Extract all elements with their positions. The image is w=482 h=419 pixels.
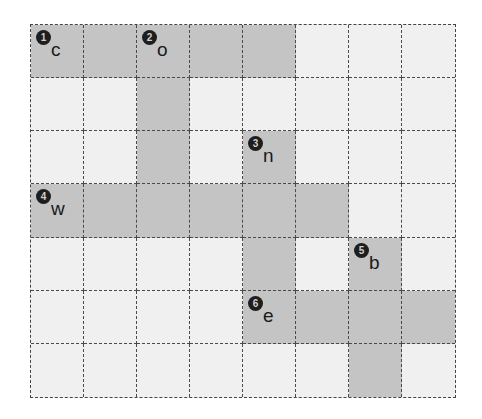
grid-cell-blank[interactable] — [190, 131, 243, 184]
grid-cell-blank[interactable] — [402, 238, 455, 291]
grid-cell-blank[interactable] — [137, 344, 190, 397]
grid-cell-blank[interactable] — [190, 344, 243, 397]
grid-cell-blank[interactable] — [402, 78, 455, 131]
grid-cell-blank[interactable] — [402, 184, 455, 237]
clue-number-badge: 5 — [354, 243, 369, 258]
grid-cell-blank[interactable] — [243, 344, 296, 397]
grid-cell-answer[interactable] — [402, 291, 455, 344]
grid-cell-answer[interactable] — [243, 238, 296, 291]
grid-cell-blank[interactable] — [31, 291, 84, 344]
clue-letter: n — [263, 145, 274, 167]
clue-number-badge: 1 — [36, 30, 51, 45]
clue-letter: o — [157, 39, 168, 61]
grid-cell-blank[interactable] — [84, 238, 137, 291]
grid-cell-blank[interactable] — [243, 78, 296, 131]
grid-cell-blank[interactable] — [84, 344, 137, 397]
grid-cell-blank[interactable] — [190, 78, 243, 131]
clue-letter: e — [263, 305, 274, 327]
clue-number-badge: 2 — [142, 30, 157, 45]
grid-cell-answer[interactable] — [349, 344, 402, 397]
grid-cell-answer[interactable] — [349, 291, 402, 344]
grid-cell-answer[interactable]: 4w — [31, 184, 84, 237]
grid-cell-blank[interactable] — [31, 131, 84, 184]
grid-cell-answer[interactable]: 5b — [349, 238, 402, 291]
clue-number-badge: 6 — [248, 296, 263, 311]
grid-cell-blank[interactable] — [84, 291, 137, 344]
grid-cell-answer[interactable] — [296, 184, 349, 237]
grid-cell-blank[interactable] — [296, 344, 349, 397]
grid-cell-blank[interactable] — [190, 238, 243, 291]
grid-cell-blank[interactable] — [31, 78, 84, 131]
grid-cell-blank[interactable] — [349, 78, 402, 131]
grid-cell-blank[interactable] — [296, 238, 349, 291]
grid-cell-blank[interactable] — [31, 344, 84, 397]
clue-number-badge: 4 — [36, 189, 51, 204]
grid-cell-answer[interactable] — [137, 184, 190, 237]
grid-cell-answer[interactable] — [84, 25, 137, 78]
grid-cell-blank[interactable] — [190, 291, 243, 344]
crossword-grid: 1c2o3n4w5b6e — [30, 24, 456, 398]
grid-cell-answer[interactable]: 3n — [243, 131, 296, 184]
clue-number-badge: 3 — [248, 136, 263, 151]
grid-cell-blank[interactable] — [349, 25, 402, 78]
grid-cell-blank[interactable] — [402, 25, 455, 78]
grid-cell-answer[interactable] — [137, 131, 190, 184]
clue-letter: b — [369, 252, 380, 274]
grid-cell-answer[interactable] — [84, 184, 137, 237]
grid-cell-blank[interactable] — [349, 184, 402, 237]
grid-cell-blank[interactable] — [402, 344, 455, 397]
grid-cell-blank[interactable] — [402, 131, 455, 184]
grid-cell-blank[interactable] — [349, 131, 402, 184]
grid-cell-blank[interactable] — [296, 131, 349, 184]
grid-cell-answer[interactable] — [296, 291, 349, 344]
grid-cell-answer[interactable] — [190, 25, 243, 78]
grid-cell-answer[interactable] — [190, 184, 243, 237]
grid-cell-blank[interactable] — [137, 291, 190, 344]
grid-cell-answer[interactable] — [137, 78, 190, 131]
grid-cell-blank[interactable] — [296, 25, 349, 78]
grid-cell-blank[interactable] — [84, 78, 137, 131]
clue-letter: c — [51, 39, 61, 61]
grid-cell-answer[interactable]: 1c — [31, 25, 84, 78]
grid-cell-blank[interactable] — [296, 78, 349, 131]
grid-cell-blank[interactable] — [31, 238, 84, 291]
grid-cell-answer[interactable] — [243, 25, 296, 78]
grid-cell-answer[interactable]: 2o — [137, 25, 190, 78]
clue-letter: w — [51, 198, 65, 220]
grid-cell-blank[interactable] — [84, 131, 137, 184]
grid-cell-answer[interactable] — [243, 184, 296, 237]
grid-cell-answer[interactable]: 6e — [243, 291, 296, 344]
grid-cell-blank[interactable] — [137, 238, 190, 291]
